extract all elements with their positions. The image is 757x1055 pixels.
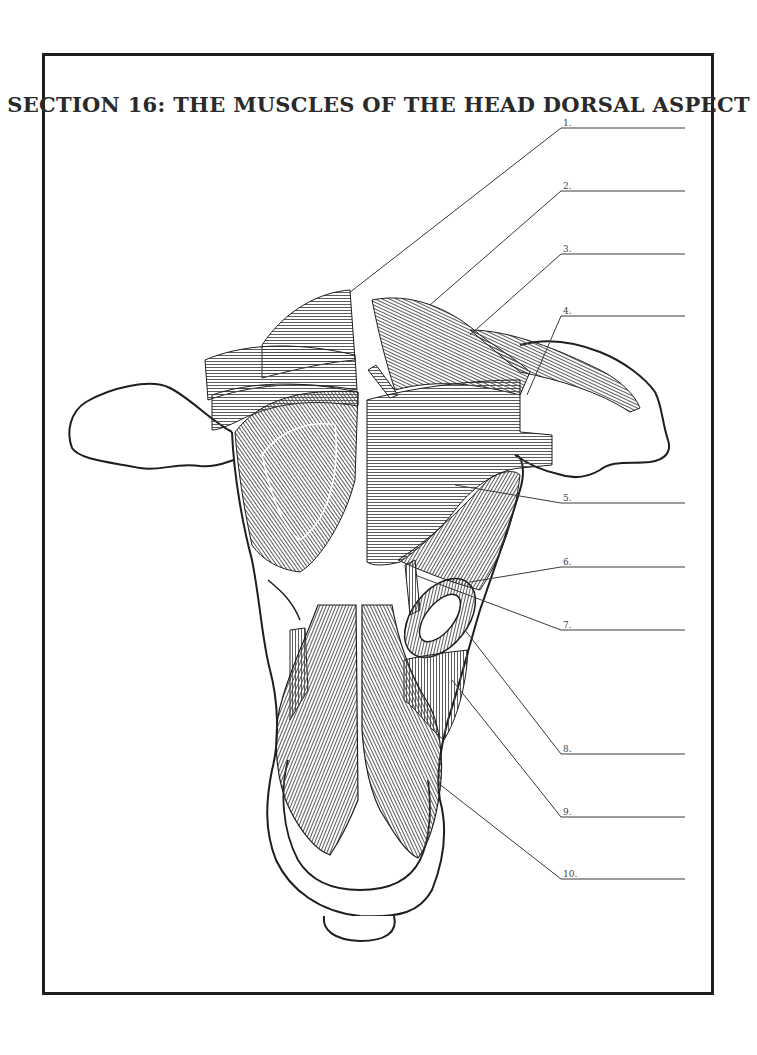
leader-line-10 <box>438 783 685 879</box>
leader-line-2 <box>430 191 685 305</box>
left-face-contour <box>268 580 300 620</box>
head-dorsal-muscle-diagram: 1. 2. 3. 4. 5. 6. 7. 8. 9. 10. <box>0 0 757 1055</box>
leader-line-8 <box>465 630 685 754</box>
nose-pad <box>324 916 395 941</box>
muscle-left-frontal <box>235 391 358 572</box>
label-8: 8. <box>563 744 572 754</box>
leader-line-3 <box>470 254 685 335</box>
leader-line-1 <box>349 128 685 293</box>
label-5: 5. <box>563 493 572 503</box>
label-6: 6. <box>563 557 572 567</box>
label-9: 9. <box>563 807 572 817</box>
muscle-nasal-left <box>276 605 358 855</box>
label-2: 2. <box>563 181 572 191</box>
label-7: 7. <box>563 620 572 630</box>
leader-line-6 <box>470 567 685 582</box>
label-3: 3. <box>563 244 572 254</box>
label-numbers: 1. 2. 3. 4. 5. 6. 7. 8. 9. 10. <box>563 118 577 879</box>
label-4: 4. <box>563 306 572 316</box>
label-1: 1. <box>563 118 572 128</box>
label-10: 10. <box>563 869 577 879</box>
